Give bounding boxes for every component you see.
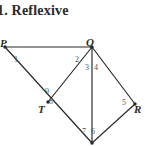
segment-q-r — [92, 47, 135, 104]
angle-8: 8 — [49, 97, 53, 106]
page-title: 1. Reflexive — [0, 2, 117, 22]
angle-6: 6 — [91, 127, 95, 136]
segment-group — [5, 47, 135, 143]
angle-2: 2 — [75, 55, 79, 64]
vertex-label-r: R — [134, 103, 141, 115]
figure-screenshot: 1. Reflexive PQTR 123456789 — [0, 0, 145, 146]
angle-4: 4 — [94, 63, 98, 72]
vertex-dot-s — [90, 141, 93, 144]
vertex-dot-group — [3, 45, 136, 144]
vertex-label-q: Q — [86, 36, 94, 48]
vertex-label-p: P — [0, 37, 7, 49]
angle-5: 5 — [122, 98, 126, 107]
angle-7: 7 — [82, 127, 86, 136]
geometry-figure-svg — [0, 24, 145, 146]
segment-q-t — [48, 47, 92, 102]
angle-9: 9 — [45, 87, 49, 96]
angle-1: 1 — [14, 55, 18, 64]
angle-3: 3 — [85, 63, 89, 72]
segment-r-s — [92, 104, 135, 143]
vertex-label-t: T — [38, 103, 45, 115]
geometry-figure: PQTR 123456789 — [0, 24, 145, 146]
